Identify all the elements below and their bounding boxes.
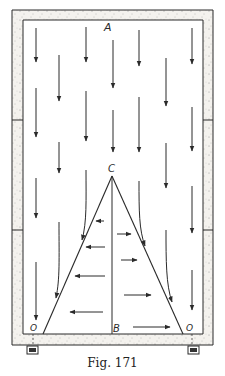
figure-caption: Fig. 171 xyxy=(0,356,225,370)
label-o-right: O xyxy=(186,323,193,333)
foot-inner xyxy=(29,348,36,352)
curved-arrow xyxy=(166,230,172,302)
flow-arrows xyxy=(36,27,192,327)
ventilation-flow-diagram: A C B O O xyxy=(0,0,225,376)
label-o-left: O xyxy=(30,323,37,333)
label-b: B xyxy=(113,323,120,334)
foot-inner xyxy=(190,348,197,352)
triangle-left-side xyxy=(43,176,112,334)
triangle-partition xyxy=(43,176,183,334)
curved-arrow xyxy=(82,170,86,240)
label-c: C xyxy=(108,163,115,174)
triangle-right-side xyxy=(112,176,183,334)
curved-arrow xyxy=(139,181,145,246)
feet xyxy=(27,346,199,354)
curved-arrow xyxy=(56,222,59,298)
label-a: A xyxy=(103,21,112,34)
